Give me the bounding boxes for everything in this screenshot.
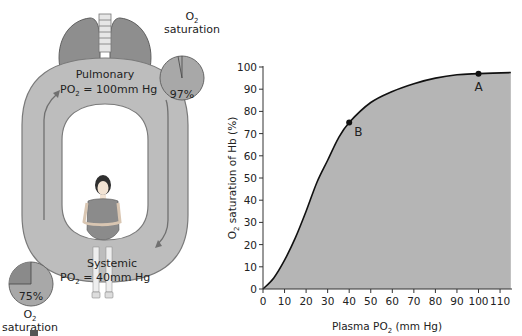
pie-bottom-percent: 75% <box>19 290 43 303</box>
pie-top-saturation-label: saturation <box>164 23 220 36</box>
point-label-b: B <box>354 125 362 139</box>
y-ticks: 0102030405060708090100 <box>237 61 263 295</box>
systemic-title: Systemic <box>87 257 137 270</box>
point-a <box>476 71 482 77</box>
x-tick-label: 90 <box>450 295 463 307</box>
y-tick-label: 0 <box>250 283 257 295</box>
dissociation-chart: 0102030405060708090100 01020304050607080… <box>225 0 522 336</box>
x-tick-label: 60 <box>386 295 399 307</box>
y-tick-label: 90 <box>244 83 257 95</box>
y-tick-label: 40 <box>244 194 257 206</box>
y-tick-label: 30 <box>244 216 257 228</box>
circulation-diagram: Pulmonary PO2 = 100mm Hg Systemic PO2 = … <box>0 0 240 336</box>
pie-bottom-75: 75% O2 saturation <box>2 262 58 334</box>
pie-top-percent: 97% <box>170 88 194 101</box>
x-tick-label: 20 <box>299 295 312 307</box>
y-axis-label: O2 saturation of Hb (%) <box>226 117 241 239</box>
pie-top-97: O2 saturation 97% <box>160 10 220 101</box>
y-tick-label: 70 <box>244 128 257 140</box>
y-tick-label: 80 <box>244 105 257 117</box>
x-tick-label: 10 <box>278 295 291 307</box>
corner-marker <box>30 330 38 336</box>
point-label-a: A <box>474 80 483 94</box>
y-tick-label: 50 <box>244 172 257 184</box>
chart-area-fill <box>263 73 511 289</box>
x-tick-label: 70 <box>407 295 420 307</box>
x-tick-label: 30 <box>321 295 334 307</box>
x-tick-label: 110 <box>490 295 510 307</box>
y-tick-label: 100 <box>237 61 257 73</box>
x-tick-label: 100 <box>468 295 488 307</box>
y-tick-label: 10 <box>244 261 257 273</box>
x-tick-label: 80 <box>429 295 442 307</box>
y-tick-label: 20 <box>244 239 257 251</box>
pulmonary-po2-label: PO2 = 100mm Hg <box>60 83 157 98</box>
chart-svg: 0102030405060708090100 01020304050607080… <box>225 0 522 336</box>
circulation-svg: Pulmonary PO2 = 100mm Hg Systemic PO2 = … <box>0 0 240 336</box>
x-ticks: 0102030405060708090100110 <box>260 289 510 307</box>
y-tick-label: 60 <box>244 150 257 162</box>
point-b <box>346 120 352 126</box>
x-axis-label: Plasma PO2 (mm Hg) <box>332 320 442 335</box>
systemic-po2-label: PO2 = 40mm Hg <box>60 271 150 286</box>
x-tick-label: 0 <box>260 295 267 307</box>
x-tick-label: 40 <box>343 295 356 307</box>
pulmonary-title: Pulmonary <box>76 68 135 81</box>
x-tick-label: 50 <box>364 295 377 307</box>
